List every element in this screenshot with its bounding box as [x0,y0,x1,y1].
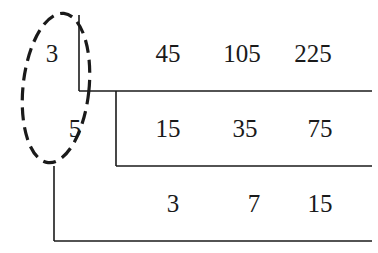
row-3-value-2: 7 [248,190,261,217]
diagram-svg: 3 45 105 225 5 15 35 75 3 7 15 [0,0,378,253]
divisor-1: 3 [46,40,59,67]
row-2-value-1: 15 [156,115,181,142]
row-2-value-3: 75 [308,115,333,142]
row-3-value-1: 3 [167,190,180,217]
row-1-value-1: 45 [156,40,181,67]
short-division-diagram: 3 45 105 225 5 15 35 75 3 7 15 [0,0,378,253]
row-3-value-3: 15 [308,190,333,217]
row-1-value-2: 105 [223,40,261,67]
row-1-value-3: 225 [294,40,332,67]
row-2-value-2: 35 [233,115,258,142]
divisor-highlight-ellipse [15,10,96,166]
divisor-2: 5 [69,115,82,142]
